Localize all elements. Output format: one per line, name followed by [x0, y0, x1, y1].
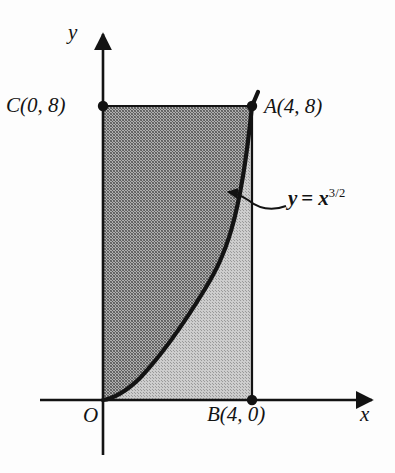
equation-lhs: y [288, 186, 297, 210]
point-label-A: A(4, 8) [264, 96, 322, 117]
figure-canvas: C(0, 8) A(4, 8) B(4, 0) O y x y=x3/2 [0, 0, 395, 473]
point-label-C: C(0, 8) [6, 95, 66, 116]
origin-label: O [83, 405, 98, 426]
equation-exponent: 3/2 [329, 186, 346, 200]
point-marker-C [98, 101, 108, 111]
x-axis-label: x [360, 404, 369, 425]
equation-base: x [318, 186, 329, 210]
equation-operator: = [301, 186, 313, 210]
point-label-B: B(4, 0) [207, 404, 265, 425]
point-marker-A [247, 101, 257, 111]
diagram-svg [0, 0, 395, 473]
curve-equation-label: y=x3/2 [288, 187, 346, 209]
y-axis-label: y [68, 22, 77, 43]
